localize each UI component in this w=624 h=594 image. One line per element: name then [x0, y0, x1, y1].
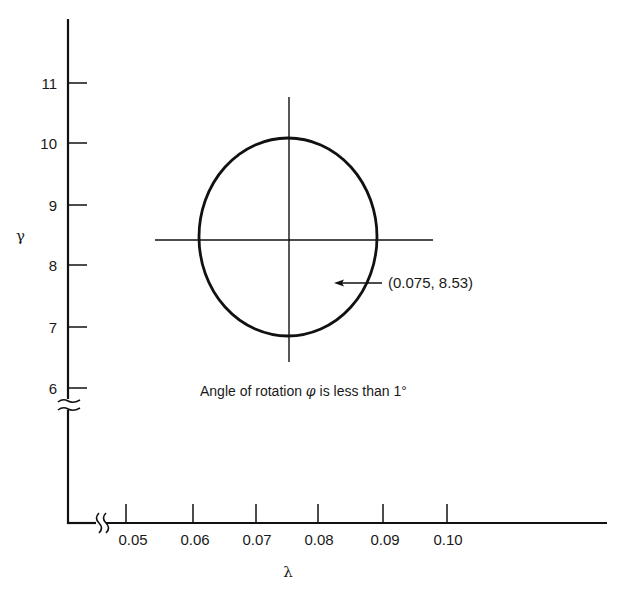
confidence-ellipse-chart: 11 10 9 8 7 6 γ 0.05 0.06 0.07 0.08 0.09…: [0, 0, 624, 594]
y-tick-labels: 11 10 9 8 7 6: [40, 75, 57, 397]
rotation-note-post: is less than 1°: [316, 383, 407, 399]
rotation-note: Angle of rotation φ is less than 1°: [200, 383, 407, 399]
crosshair: [155, 97, 433, 362]
x-tick-label: 0.09: [370, 531, 399, 548]
x-tick-label: 0.07: [242, 531, 271, 548]
phi-symbol: φ: [306, 383, 316, 399]
arrow-icon: [334, 280, 382, 287]
y-tick-label: 10: [40, 135, 57, 152]
x-axis-break-icon: [97, 513, 109, 533]
x-ticks: [126, 504, 447, 523]
y-tick-label: 11: [41, 75, 57, 92]
confidence-ellipse: [199, 138, 377, 336]
x-tick-label: 0.06: [180, 531, 209, 548]
y-tick-label: 6: [49, 380, 57, 397]
y-axis-break-icon: [58, 400, 80, 411]
y-axis-label: γ: [16, 227, 25, 245]
y-tick-label: 7: [49, 319, 57, 336]
y-tick-label: 9: [49, 197, 57, 214]
x-tick-label: 0.08: [304, 531, 333, 548]
center-label: (0.075, 8.53): [388, 274, 473, 291]
x-tick-label: 0.05: [118, 531, 147, 548]
rotation-note-pre: Angle of rotation: [200, 383, 306, 399]
y-tick-label: 8: [49, 257, 57, 274]
x-axis-label: λ: [283, 563, 293, 581]
x-tick-labels: 0.05 0.06 0.07 0.08 0.09 0.10: [118, 531, 462, 548]
y-ticks: [68, 83, 87, 388]
x-tick-label: 0.10: [433, 531, 462, 548]
